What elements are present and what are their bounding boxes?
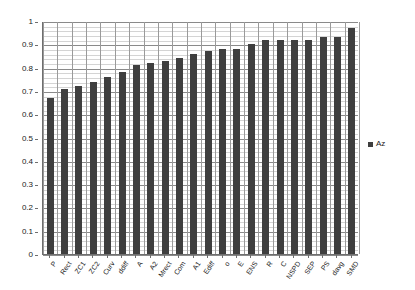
x-axis-tick-label: P [49,260,57,268]
x-axis-tick-label: Rect [58,260,72,276]
legend: Az [368,140,385,148]
x-axis-tick-label: o [222,260,230,267]
x-axis-tick-label: NSPD [285,260,302,280]
bar [205,51,212,254]
y-axis-tick-mark [35,115,38,116]
bar [190,54,197,254]
bar [348,28,355,254]
y-axis-tick-label: 0.7 [22,88,33,96]
legend-label-az: Az [376,140,385,148]
y-axis-tick-mark [35,69,38,70]
x-axis-tick-mark [250,255,251,258]
y-axis: 00.10.20.30.40.50.60.70.80.91 [0,22,38,255]
x-axis-tick-mark [279,255,280,258]
bar [90,82,97,254]
bar [305,40,312,254]
x-axis-tick-mark [121,255,122,258]
y-axis-tick-mark [35,208,38,209]
x-axis-tick-label: A1 [191,260,202,271]
x-axis-tick-mark [293,255,294,258]
x-axis-tick-mark [178,255,179,258]
x-axis-tick-mark [107,255,108,258]
y-axis-tick-label: 0.2 [22,204,33,212]
plot-area [42,22,358,255]
x-axis-tick-label: Curv [101,260,115,276]
x-axis-tick-label: SMD [345,260,360,277]
x-axis-tick-mark [135,255,136,258]
y-axis-tick-mark [35,92,38,93]
y-axis-tick-mark [35,255,38,256]
y-axis-tick-label: 0.6 [22,111,33,119]
x-axis-tick-label: Ediff [202,260,216,275]
x-axis-tick-label: davg [331,260,345,276]
x-axis-tick-label: SEP [303,260,317,275]
x-axis-tick-mark [308,255,309,258]
x-axis-tick-label: Com [173,260,187,276]
bar-chart: 00.10.20.30.40.50.60.70.80.91 PRectZC1ZC… [0,0,415,290]
x-axis-tick-label: C [279,260,288,268]
bar [176,58,183,254]
y-axis-tick-mark [35,185,38,186]
x-axis-tick-mark [207,255,208,258]
y-axis-tick-label: 0.4 [22,158,33,166]
bar [133,65,140,254]
x-axis-tick-label: ZC2 [88,260,101,275]
x-axis-tick-label: R [265,260,274,268]
y-axis-tick-label: 0.8 [22,65,33,73]
bar [219,49,226,254]
x-axis-tick-mark [222,255,223,258]
bar [277,40,284,254]
bar [47,98,54,254]
y-axis-tick-label: 1 [29,18,33,26]
x-axis-tick-mark [92,255,93,258]
x-axis-tick-label: PS [320,260,331,272]
y-axis-tick-label: 0.9 [22,41,33,49]
bar [147,63,154,254]
y-axis-tick-label: 0.5 [22,135,33,143]
y-axis-tick-mark [35,162,38,163]
x-axis-tick-mark [265,255,266,258]
x-axis: PRectZC1ZC2CurvddiffAA2MrectComA1EdiffoE… [42,255,358,290]
x-axis-tick-mark [236,255,237,258]
y-axis-tick-mark [35,232,38,233]
x-axis-tick-label: ZC1 [73,260,86,275]
x-axis-tick-mark [150,255,151,258]
x-axis-tick-label: ddiff [116,260,129,275]
x-axis-tick-label: A [136,260,144,268]
bar [119,72,126,254]
y-axis-tick-label: 0 [29,251,33,259]
x-axis-tick-mark [64,255,65,258]
y-axis-tick-mark [35,45,38,46]
x-axis-tick-mark [193,255,194,258]
bar [75,86,82,254]
y-axis-tick-label: 0.3 [22,181,33,189]
bars-layer [43,22,358,254]
x-axis-tick-mark [49,255,50,258]
x-axis-tick-mark [164,255,165,258]
x-axis-tick-label: A2 [148,260,159,271]
y-axis-tick-mark [35,22,38,23]
bar [233,49,240,254]
y-axis-tick-label: 0.1 [22,228,33,236]
gridline-vertical [359,22,360,254]
x-axis-tick-label: ENS [245,260,259,276]
x-axis-tick-mark [78,255,79,258]
bar [320,37,327,254]
bar [162,61,169,254]
y-axis-tick-mark [35,139,38,140]
bar [61,89,68,254]
legend-swatch-az [368,142,373,147]
x-axis-tick-label: Mrect [157,260,173,278]
x-axis-tick-label: E [236,260,244,268]
bar [248,44,255,254]
x-axis-tick-mark [351,255,352,258]
x-axis-tick-mark [322,255,323,258]
bar [104,77,111,254]
x-axis-tick-mark [336,255,337,258]
bar [334,37,341,254]
bar [262,40,269,254]
bar [291,40,298,254]
